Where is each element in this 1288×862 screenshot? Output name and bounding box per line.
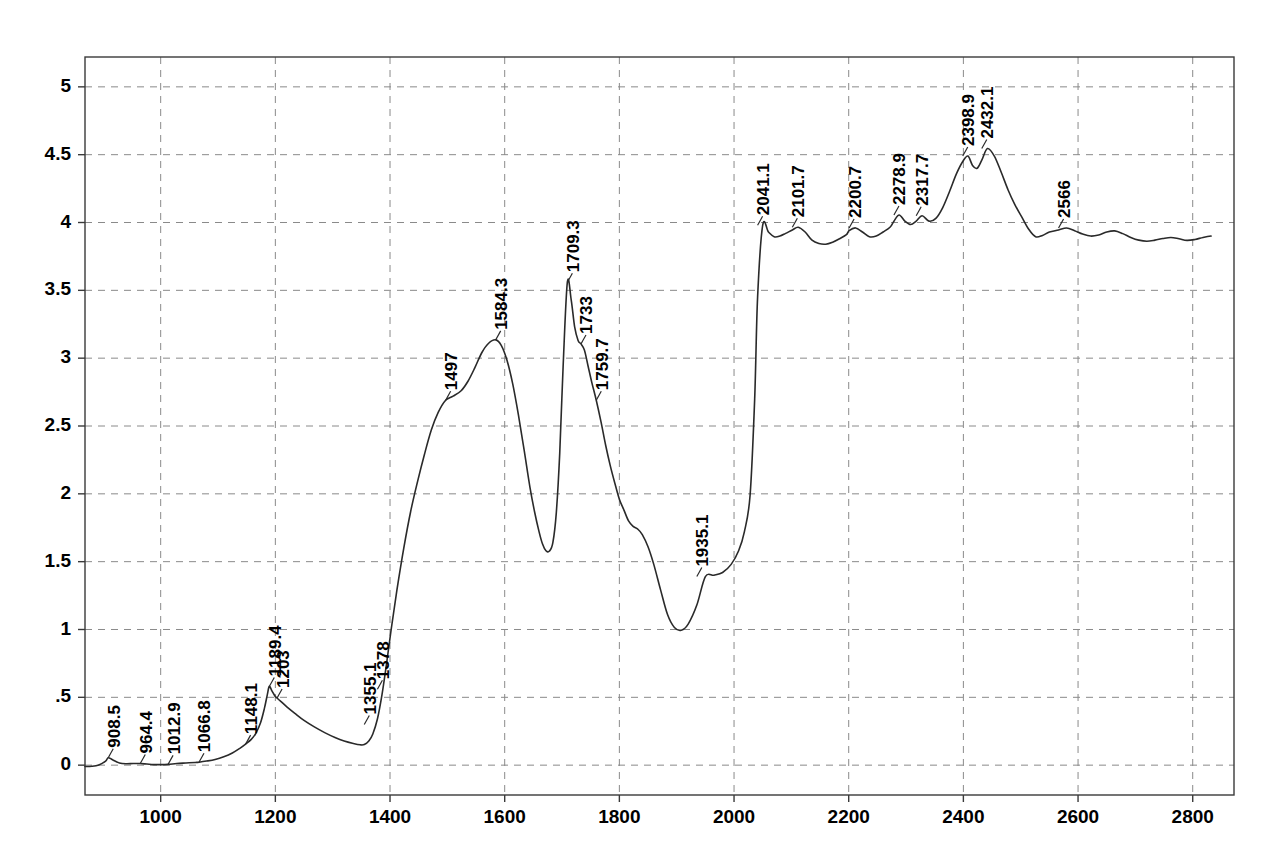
peak-label: 2041.1 [754,163,773,215]
x-tick-label: 1600 [484,806,526,827]
peak-label: 908.5 [105,705,124,748]
peak-label: 1148.1 [242,683,261,734]
x-tick-label: 1800 [598,806,640,827]
peak-label: 1378 [374,641,393,679]
peak-label: 2101.7 [789,165,808,217]
peak-label: 2200.7 [846,166,865,218]
peak-label: 1497 [442,352,461,390]
y-tick-label: 0 [60,753,71,774]
x-tick-label: 2200 [828,806,870,827]
x-tick-label: 1000 [140,806,182,827]
y-tick-label: 2.5 [45,414,72,435]
peak-label: 964.4 [137,710,156,753]
peak-label: 1935.1 [693,515,712,567]
peak-label: 2317.7 [913,154,932,206]
peak-label: 1012.9 [165,702,184,754]
y-tick-label: 3 [60,346,71,367]
peak-label: 2566 [1055,180,1074,218]
y-tick-label: .5 [55,685,71,706]
peak-label: 1759.7 [593,338,612,390]
x-tick-label: 2800 [1172,806,1214,827]
peak-label: 1584.3 [492,278,511,330]
peak-label: 2398.9 [959,94,978,146]
y-tick-label: 1 [60,618,71,639]
chart-background [0,0,1288,862]
y-tick-label: 3.5 [45,278,72,299]
peak-label: 2278.9 [890,153,909,205]
peak-label: 1066.8 [195,700,214,752]
x-tick-label: 1400 [369,806,411,827]
peak-label: 2432.1 [978,87,997,139]
peak-label: 1733 [577,296,596,334]
peak-label: 1203 [274,650,293,688]
y-tick-label: 4 [60,211,71,232]
y-tick-label: 4.5 [45,143,72,164]
spectrum-chart: 0.511.522.533.544.55 1000120014001600180… [0,0,1288,862]
x-tick-label: 2400 [942,806,984,827]
y-tick-label: 1.5 [45,550,72,571]
y-tick-label: 5 [60,75,71,96]
spectrum-plot-area: 0.511.522.533.544.55 1000120014001600180… [0,0,1288,862]
x-tick-label: 2600 [1057,806,1099,827]
x-tick-label: 2000 [713,806,755,827]
y-tick-label: 2 [60,482,71,503]
x-tick-label: 1200 [254,806,296,827]
peak-label: 1709.3 [564,220,583,272]
